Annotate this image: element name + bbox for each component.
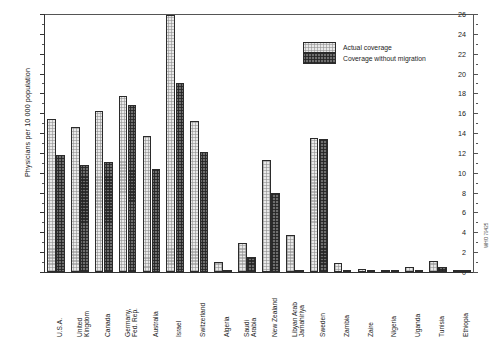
y-tick — [40, 74, 44, 75]
y-tick-minor — [42, 242, 45, 243]
y-tick-label: 8 — [440, 188, 466, 197]
bar-without-migration — [80, 165, 89, 272]
x-axis-label: Canada — [104, 314, 111, 337]
bar-actual-coverage — [358, 269, 367, 272]
right-tick — [476, 262, 479, 263]
right-tick — [474, 173, 478, 174]
y-tick — [40, 133, 44, 134]
right-tick — [476, 24, 479, 25]
y-tick — [40, 252, 44, 253]
bar-actual-coverage — [262, 160, 271, 272]
bar-group — [95, 111, 113, 272]
y-tick-label: 10 — [440, 168, 466, 177]
bar-without-migration — [367, 270, 376, 272]
x-axis-label: Zambia — [343, 315, 350, 337]
x-axis-line — [44, 272, 474, 273]
right-tick — [474, 232, 478, 233]
y-tick — [40, 54, 44, 55]
y-tick-label: 24 — [440, 29, 466, 38]
bar-group — [71, 127, 89, 272]
y-tick — [40, 232, 44, 233]
y-tick — [40, 193, 44, 194]
x-axis-label: Nigeria — [390, 316, 397, 337]
x-axis-label: New Zealand — [271, 298, 278, 337]
y-tick-label: 16 — [440, 109, 466, 118]
chart-figure: Physicians per 10 000 population 0246810… — [0, 0, 501, 340]
bar-without-migration — [56, 155, 65, 272]
x-axis-label: Uganda — [414, 314, 421, 337]
y-tick-label: 4 — [440, 228, 466, 237]
bar-actual-coverage — [381, 270, 390, 272]
y-tick — [40, 153, 44, 154]
legend-swatch-dark — [303, 53, 336, 64]
right-tick — [474, 14, 478, 15]
right-tick — [476, 123, 479, 124]
bar-group — [190, 121, 208, 272]
x-axis-label: Germany, Fed. Rep. — [124, 308, 138, 337]
bar-group — [429, 261, 447, 272]
x-axis-label: Sweden — [319, 313, 326, 337]
right-tick — [476, 44, 479, 45]
bar-actual-coverage — [166, 15, 175, 272]
right-tick — [476, 163, 479, 164]
x-axis-label: United Kingdom — [76, 311, 90, 337]
bar-actual-coverage — [190, 121, 199, 272]
y-tick-minor — [42, 44, 45, 45]
y-tick-label: 12 — [440, 149, 466, 158]
bar-actual-coverage — [334, 263, 343, 272]
bar-actual-coverage — [143, 136, 152, 272]
bar-actual-coverage — [47, 119, 56, 272]
y-tick — [40, 272, 44, 273]
y-tick-label: 14 — [440, 129, 466, 138]
bar-group — [358, 269, 376, 272]
y-tick-label: 18 — [440, 89, 466, 98]
y-tick-label: 6 — [440, 208, 466, 217]
right-tick — [474, 272, 478, 273]
y-tick-minor — [42, 83, 45, 84]
bar-actual-coverage — [429, 261, 438, 272]
y-tick — [40, 113, 44, 114]
bar-actual-coverage — [238, 243, 247, 272]
right-tick — [476, 83, 479, 84]
bar-without-migration — [391, 270, 400, 272]
figure-code: WHO 79425 — [484, 223, 489, 248]
bar-without-migration — [223, 270, 232, 272]
x-axis-label: Algeria — [223, 316, 230, 337]
y-tick-label: 22 — [440, 49, 466, 58]
right-tick — [476, 143, 479, 144]
right-tick — [474, 193, 478, 194]
bar-without-migration — [152, 169, 161, 272]
right-tick — [474, 74, 478, 75]
y-tick — [40, 212, 44, 213]
legend-item-actual-coverage: Actual coverage — [303, 42, 426, 53]
right-tick — [476, 64, 479, 65]
y-tick — [40, 34, 44, 35]
y-tick-minor — [42, 64, 45, 65]
right-tick — [476, 203, 479, 204]
x-axis-label: Israel — [175, 321, 182, 337]
bar-actual-coverage — [95, 111, 104, 272]
y-tick — [40, 93, 44, 94]
legend-swatch-light — [303, 42, 336, 53]
bar-group — [453, 270, 471, 272]
y-tick-minor — [42, 103, 45, 104]
y-tick — [40, 14, 44, 15]
bar-actual-coverage — [71, 127, 80, 272]
plot-top-border — [44, 14, 474, 15]
y-tick-label: 2 — [440, 248, 466, 257]
right-tick — [476, 103, 479, 104]
y-tick — [40, 173, 44, 174]
y-tick-minor — [42, 24, 45, 25]
x-axis-label: Tunisia — [438, 316, 445, 337]
bar-group — [238, 243, 256, 272]
bar-group — [47, 119, 65, 272]
bar-group — [119, 96, 137, 272]
y-axis-title: Physicians per 10 000 population — [23, 38, 32, 208]
right-tick — [474, 153, 478, 154]
y-tick-minor — [42, 123, 45, 124]
legend-label-actual-coverage: Actual coverage — [343, 44, 392, 51]
x-axis-label: Australia — [152, 311, 159, 337]
x-axis-label: Libyan Arab Jamahiriya — [291, 302, 305, 337]
bar-without-migration — [343, 270, 352, 272]
right-tick — [476, 242, 479, 243]
